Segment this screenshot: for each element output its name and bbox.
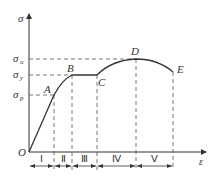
sigma-p-label: σ p (13, 88, 24, 102)
point-a-label: A (43, 83, 51, 95)
svg-text:y: y (19, 74, 24, 82)
svg-text:σ: σ (13, 68, 19, 80)
stress-strain-curve (29, 59, 173, 152)
x-axis-label: ε (199, 156, 203, 167)
point-e-label: E (176, 63, 184, 75)
svg-text:σ: σ (13, 52, 19, 64)
point-d-label: D (130, 45, 139, 57)
stage-3-label: Ⅲ (81, 153, 88, 164)
sigma-y-label: σ y (13, 68, 24, 82)
stage-2-label: Ⅱ (61, 153, 66, 164)
sigma-u-label: σ u (13, 52, 24, 66)
point-b-label: B (67, 62, 74, 74)
stage-4-label: Ⅳ (112, 153, 122, 164)
point-c-label: C (98, 76, 106, 88)
stage-5-label: Ⅴ (151, 153, 158, 164)
svg-text:u: u (20, 58, 24, 66)
svg-text:p: p (19, 94, 24, 102)
stress-strain-diagram: Ⅰ Ⅱ Ⅲ Ⅳ Ⅴ σ ε O σ u σ y σ p A B C D E (0, 0, 217, 180)
origin-label: O (18, 146, 26, 158)
svg-text:σ: σ (13, 88, 19, 100)
stage-1-label: Ⅰ (40, 153, 43, 164)
diagram-canvas: Ⅰ Ⅱ Ⅲ Ⅳ Ⅴ σ ε O σ u σ y σ p A B C D E (0, 0, 217, 180)
y-axis-label: σ (18, 12, 24, 24)
